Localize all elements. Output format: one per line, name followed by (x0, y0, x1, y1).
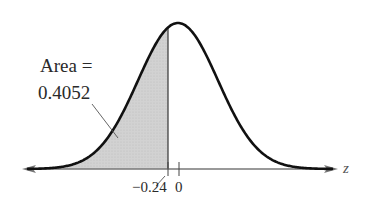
normal-distribution-chart: −0.24 0 z Area = 0.4052 (0, 0, 369, 208)
tick-label-zero: 0 (175, 179, 183, 195)
area-annotation-value: 0.4052 (38, 82, 90, 103)
tick-label-neg: −0.24 (132, 179, 167, 195)
annotation-leader (92, 104, 118, 138)
area-annotation-line1: Area = (40, 55, 92, 76)
axis-label-z: z (342, 160, 349, 176)
